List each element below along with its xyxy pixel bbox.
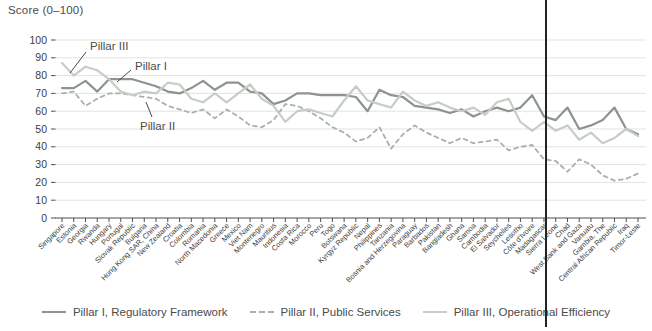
line-chart: 0102030405060708090100SingaporeEstoniaGe… — [0, 0, 652, 331]
y-tick-label: 20 — [35, 176, 47, 188]
axes: 0102030405060708090100SingaporeEstoniaGe… — [29, 34, 646, 285]
annotation-connector — [146, 102, 152, 117]
annotation-label: Pillar III — [90, 40, 128, 52]
legend-item-pillar3: Pillar III, Operational Efficiency — [423, 306, 610, 318]
legend: Pillar I, Regulatory FrameworkPillar II,… — [0, 306, 652, 318]
annotation-label: Pillar II — [140, 120, 175, 132]
legend-item-pillar2: Pillar II, Public Services — [250, 306, 401, 318]
y-tick-label: 30 — [35, 158, 47, 170]
y-tick-label: 70 — [35, 87, 47, 99]
series-annotations: Pillar IIIPillar IPillar II — [70, 40, 175, 132]
legend-label: Pillar III, Operational Efficiency — [454, 306, 610, 318]
y-tick-label: 10 — [35, 194, 47, 206]
legend-item-pillar1: Pillar I, Regulatory Framework — [42, 306, 228, 318]
y-tick-label: 50 — [35, 123, 47, 135]
chart-container: Score (0–100) 0102030405060708090100Sing… — [0, 0, 652, 331]
y-tick-label: 0 — [41, 212, 47, 224]
y-tick-label: 40 — [35, 140, 47, 152]
legend-label: Pillar I, Regulatory Framework — [73, 306, 228, 318]
y-tick-label: 90 — [35, 51, 47, 63]
annotation-connector — [70, 52, 86, 73]
legend-label: Pillar II, Public Services — [281, 306, 401, 318]
vertical-rule — [545, 0, 547, 327]
annotation-label: Pillar I — [135, 60, 167, 72]
y-tick-label: 60 — [35, 105, 47, 117]
y-tick-label: 80 — [35, 69, 47, 81]
y-tick-label: 100 — [29, 34, 47, 46]
series-line — [62, 92, 638, 181]
legend-swatch-solid — [42, 311, 66, 313]
legend-swatch-dashed — [250, 311, 274, 313]
legend-swatch-solid — [423, 311, 447, 313]
